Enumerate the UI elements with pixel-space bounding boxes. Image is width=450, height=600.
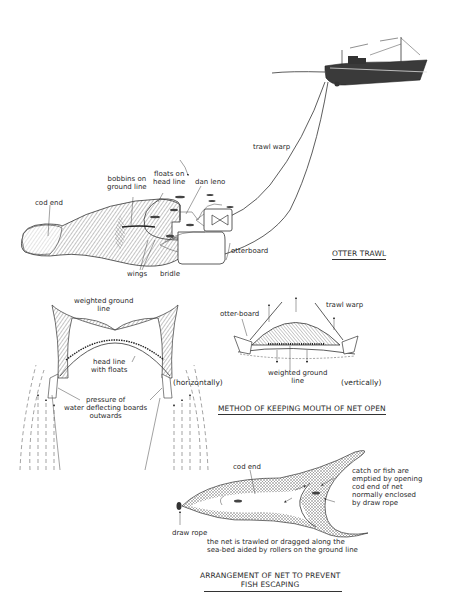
label-catch-note: catch or fish areemptied by openingcod e…: [352, 467, 422, 507]
label-trawl-warp-v: trawl warp: [326, 301, 363, 309]
label-floats-line1: floats on: [154, 170, 184, 178]
label-pressure-line1: pressure of: [86, 396, 125, 404]
label-bobbins-line1: bobbins on: [108, 175, 147, 183]
title-escape-line2: FISH ESCAPING: [241, 580, 300, 589]
label-floats: floats onhead line: [153, 170, 185, 186]
diagram-artwork: [0, 0, 450, 600]
label-weighted-h-line1: weighted ground: [74, 297, 133, 305]
label-trawled-line2: sea-bed aided by rollers on the ground l…: [207, 546, 358, 554]
label-cod-end: cod end: [35, 199, 63, 207]
label-weighted-v-line2: line: [291, 377, 304, 385]
label-bobbins-line2: ground line: [107, 183, 147, 191]
cod-end-drawing: [177, 451, 369, 538]
label-draw-rope: draw rope: [172, 529, 207, 537]
label-catch-line5: by draw rope: [352, 499, 398, 507]
label-cod-end-2: cod end: [233, 463, 261, 471]
trawl-net-drawing: [21, 199, 198, 266]
title-escape-line1: ARRANGEMENT OF NET TO PREVENT: [200, 571, 341, 580]
label-catch-line1: catch or fish are: [352, 467, 409, 475]
title-escape: ARRANGEMENT OF NET TO PREVENT FISH ESCAP…: [200, 571, 340, 589]
label-weighted-ground-line-v: weighted groundline: [268, 369, 327, 385]
horizontal-mouth-drawing: [20, 305, 208, 470]
title-escape-underline: [204, 591, 342, 592]
label-headline-line1: head line: [93, 358, 125, 366]
trawler-ship-icon: [272, 37, 427, 87]
label-pressure-line3: outwards: [89, 412, 121, 420]
label-vertically: (vertically): [341, 379, 381, 387]
label-catch-line2: emptied by opening: [352, 475, 422, 483]
label-trawled-line1: the net is trawled or dragged along the: [207, 538, 345, 546]
label-weighted-ground-line-h: weighted groundline: [74, 297, 133, 313]
label-otterboard: otterboard: [231, 247, 268, 255]
label-wings: wings: [127, 270, 147, 278]
label-catch-line3: cod end of net: [352, 483, 403, 491]
label-trawled-note: the net is trawled or dragged along thes…: [207, 538, 358, 554]
label-bobbins: bobbins onground line: [107, 175, 147, 191]
title-mouth-open: METHOD OF KEEPING MOUTH OF NET OPEN: [218, 404, 386, 415]
label-catch-line4: normally enclosed: [352, 491, 416, 499]
label-floats-line2: head line: [153, 178, 185, 186]
trawl-warp-line: [213, 82, 325, 222]
label-otter-board-v: otter-board: [220, 310, 259, 318]
label-weighted-h-line2: line: [97, 305, 110, 313]
label-dan-leno: dan leno: [195, 178, 225, 186]
label-pressure: pressure ofwater deflecting boardsoutwar…: [64, 396, 147, 420]
label-head-line-floats: head linewith floats: [91, 358, 127, 374]
label-headline-line2: with floats: [91, 366, 127, 374]
label-bridle: bridle: [160, 270, 180, 278]
label-pressure-line2: water deflecting boards: [64, 404, 147, 412]
otterboard-upper: [196, 204, 232, 231]
label-weighted-v-line1: weighted ground: [268, 369, 327, 377]
label-horizontally: (horizontally): [173, 379, 223, 387]
title-otter-trawl: OTTER TRAWL: [332, 249, 386, 260]
label-trawl-warp: trawl warp: [253, 143, 290, 151]
